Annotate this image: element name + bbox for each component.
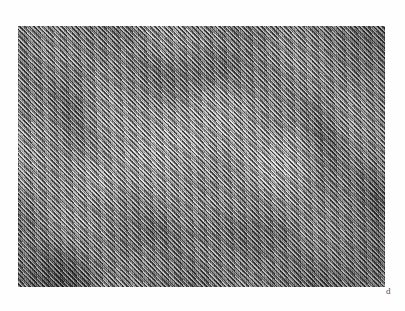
micrograph-image — [18, 26, 385, 287]
vignette-layer — [18, 26, 385, 287]
figure-root: d — [0, 0, 405, 311]
panel-label: d — [386, 286, 391, 296]
